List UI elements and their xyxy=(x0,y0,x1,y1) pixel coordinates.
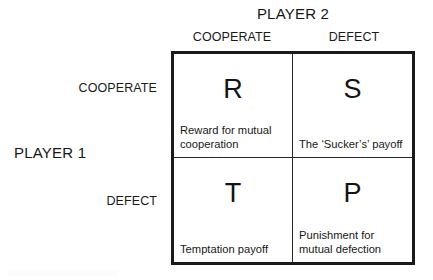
payoff-description-t: Temptation payoff xyxy=(180,243,288,256)
payoff-letter-s: S xyxy=(293,76,412,103)
matrix-cell-punishment: P Punishment for mutual defection xyxy=(293,158,412,262)
payoff-description-s: The ‘Sucker’s’ payoff xyxy=(299,138,408,151)
payoff-letter-r: R xyxy=(174,76,292,103)
payoff-letter-p: P xyxy=(293,180,412,207)
column-header-defect: DEFECT xyxy=(293,30,415,44)
matrix-cell-sucker: S The ‘Sucker’s’ payoff xyxy=(293,54,412,158)
matrix-cell-reward: R Reward for mutual cooperation xyxy=(174,54,293,158)
row-header-cooperate: COOPERATE xyxy=(79,81,157,95)
scan-artifact xyxy=(8,270,118,276)
payoff-letter-t: T xyxy=(174,180,292,207)
payoff-description-r: Reward for mutual cooperation xyxy=(180,124,288,151)
row-header-defect: DEFECT xyxy=(106,194,157,208)
column-header-cooperate: COOPERATE xyxy=(171,30,293,44)
payoff-matrix-diagram: PLAYER 2 COOPERATE DEFECT PLAYER 1 COOPE… xyxy=(0,0,433,280)
payoff-matrix-grid: R Reward for mutual cooperation S The ‘S… xyxy=(171,51,415,265)
row-axis-title: PLAYER 1 xyxy=(14,144,86,161)
payoff-description-p: Punishment for mutual defection xyxy=(299,229,408,256)
matrix-cell-temptation: T Temptation payoff xyxy=(174,158,293,262)
column-axis-title: PLAYER 2 xyxy=(171,5,415,22)
